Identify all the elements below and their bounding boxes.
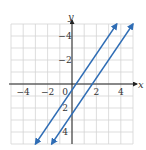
x-tick-label: 4: [118, 87, 124, 97]
x-axis-label: x: [138, 79, 144, 90]
x-tick-label: 0: [62, 87, 68, 97]
axes: [9, 20, 137, 144]
y-axis-label: y: [67, 11, 74, 22]
y-tick-label: −4: [58, 31, 72, 41]
y-tick-label: 4: [62, 127, 68, 137]
x-tick-label: −2: [41, 87, 54, 97]
x-tick-label: −4: [17, 87, 31, 97]
y-tick-label: −2: [58, 55, 71, 65]
chart-svg: −4−202442−2−4 x y: [0, 0, 146, 150]
x-tick-label: 2: [94, 87, 100, 97]
